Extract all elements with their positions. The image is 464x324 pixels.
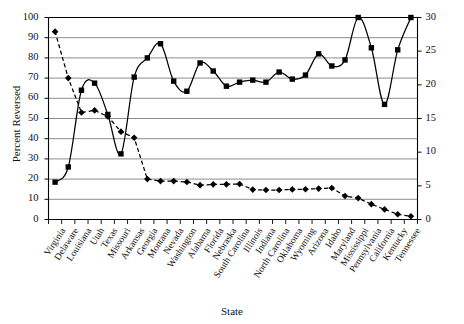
data-point bbox=[303, 72, 308, 77]
data-point bbox=[211, 68, 216, 73]
y-tick-label-right: 20 bbox=[426, 78, 456, 89]
y-tick-label-left: 0 bbox=[9, 213, 39, 224]
y-tick-label-left: 50 bbox=[9, 112, 39, 123]
data-point bbox=[197, 182, 204, 189]
data-point bbox=[79, 88, 84, 93]
data-point bbox=[210, 181, 217, 188]
chart-figure: Percent Reversed Percent Death Sentences… bbox=[0, 0, 464, 324]
y-tick-label-left: 90 bbox=[9, 31, 39, 42]
y-tick-label-left: 70 bbox=[9, 71, 39, 82]
data-point bbox=[105, 112, 110, 117]
y-tick-label-left: 30 bbox=[9, 152, 39, 163]
data-point bbox=[329, 185, 336, 192]
data-point bbox=[355, 15, 360, 20]
data-point bbox=[223, 181, 230, 188]
data-point bbox=[92, 80, 97, 85]
data-point bbox=[342, 193, 349, 200]
data-point bbox=[118, 151, 123, 156]
data-point bbox=[290, 76, 295, 81]
data-point bbox=[289, 186, 296, 193]
data-point bbox=[144, 176, 151, 183]
data-point bbox=[145, 55, 150, 60]
series-1 bbox=[52, 28, 414, 219]
data-point bbox=[171, 78, 176, 83]
y-tick-label-right: 25 bbox=[426, 44, 456, 55]
data-point bbox=[65, 75, 72, 82]
data-point bbox=[316, 51, 321, 56]
data-point bbox=[66, 164, 71, 169]
series-line bbox=[55, 32, 411, 217]
y-tick-label-left: 100 bbox=[9, 11, 39, 22]
data-point bbox=[408, 15, 413, 20]
data-point bbox=[52, 28, 59, 35]
y-tick-label-right: 15 bbox=[426, 112, 456, 123]
y-tick-label-left: 80 bbox=[9, 51, 39, 62]
data-point bbox=[158, 41, 163, 46]
data-point bbox=[369, 45, 374, 50]
y-tick-label-right: 10 bbox=[426, 145, 456, 156]
data-point bbox=[91, 107, 98, 114]
data-point bbox=[329, 63, 334, 68]
data-point bbox=[237, 79, 242, 84]
y-tick-label-right: 5 bbox=[426, 179, 456, 190]
data-point bbox=[131, 74, 136, 79]
data-point bbox=[355, 195, 362, 202]
plot-area bbox=[0, 0, 464, 324]
data-point bbox=[52, 179, 57, 184]
y-tick-label-left: 40 bbox=[9, 132, 39, 143]
data-point bbox=[276, 69, 281, 74]
data-point bbox=[395, 47, 400, 52]
data-point bbox=[249, 186, 256, 193]
data-point bbox=[250, 77, 255, 82]
data-point bbox=[184, 179, 191, 186]
y-tick-label-left: 60 bbox=[9, 91, 39, 102]
data-point bbox=[224, 83, 229, 88]
y-tick-label-left: 20 bbox=[9, 172, 39, 183]
data-point bbox=[263, 79, 268, 84]
series-line bbox=[55, 17, 411, 182]
data-point bbox=[197, 60, 202, 65]
data-point bbox=[78, 109, 85, 116]
data-point bbox=[184, 89, 189, 94]
data-point bbox=[382, 102, 387, 107]
data-point bbox=[131, 134, 138, 141]
data-point bbox=[236, 181, 243, 188]
y-tick-label-right: 30 bbox=[426, 11, 456, 22]
data-point bbox=[342, 57, 347, 62]
data-point bbox=[118, 128, 125, 135]
y-tick-label-left: 10 bbox=[9, 192, 39, 203]
